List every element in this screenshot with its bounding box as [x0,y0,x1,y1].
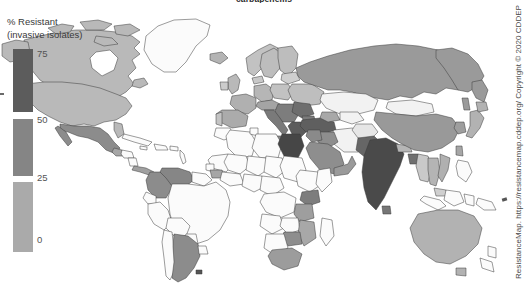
region-nicaragua [128,158,138,166]
region-mali [224,154,250,174]
colorbar-band-high [13,49,33,112]
legend: % Resistant (invasive isolates) [7,15,127,41]
region-united-kingdom [228,74,240,94]
region-dr-congo [260,192,296,218]
colorbar-band-low [13,182,33,252]
region-japan-north [476,102,488,112]
region-thailand [428,158,440,186]
region-tasmania [456,268,466,276]
region-belarus-ukraine [288,84,324,106]
colorbar-tick-50: 50 [37,115,48,125]
edge-artifact-left [0,93,4,95]
region-honduras [121,150,134,158]
region-taiwan [456,146,463,156]
colorbar-ticks: 75 50 25 0 [37,49,73,254]
region-denmark [252,76,264,84]
region-japan [466,110,484,138]
attribution: ResistanceMap. https://resistancemap.cdd… [510,0,526,283]
world-map-container [0,6,500,283]
legend-title-line-1: % Resistant [7,15,127,28]
region-syria-levant [306,130,322,142]
region-south-africa [268,248,302,270]
colorbar: 75 50 25 0 [13,49,73,254]
legend-title-line-2: (invasive isolates) [7,28,127,41]
world-map [0,6,500,283]
region-ireland [220,82,228,90]
region-papua-new-guinea [476,198,496,210]
region-finland [278,46,298,76]
colorbar-tick-0: 0 [37,235,42,245]
region-iceland [210,52,228,64]
region-uruguay [198,246,208,254]
region-new-zealand-north [488,246,496,258]
region-indonesia-borneo [444,190,464,206]
region-philippines [456,160,472,182]
region-portugal [216,112,222,126]
chart-title: carbapenems [0,0,528,3]
region-sakhalin [462,98,470,110]
region-hispaniola [154,144,168,150]
map-artifact-mark [502,197,508,201]
region-kamchatka [472,80,488,102]
region-libya [252,134,282,158]
region-egypt [278,134,304,158]
region-us-florida [114,122,124,138]
region-sri-lanka [382,206,391,214]
region-kenya [300,190,320,206]
colorbar-band-mid [13,119,33,176]
region-somalia [316,168,332,192]
region-uzbekistan [340,112,364,124]
colorbar-gradient [13,49,33,254]
region-falklands [196,270,202,274]
resistance-map-figure: carbapenems % Resistant (invasive isolat… [0,0,528,283]
region-zambia [280,218,300,234]
region-newfoundland [132,78,148,88]
region-indonesia-sumatra [420,196,446,210]
region-baltics [281,72,300,84]
region-lesser-antilles [180,150,186,164]
region-guyana-suriname [192,172,212,186]
region-vietnam [438,154,450,182]
region-australia [410,210,482,264]
region-jamaica [140,146,147,150]
colorbar-tick-75: 75 [37,49,48,59]
region-cuba [122,134,152,146]
region-madagascar [320,218,334,246]
region-greenland [144,19,210,72]
region-puerto-rico [170,146,178,151]
country-layer [2,19,496,282]
region-indonesia-sulawesi [464,194,474,206]
colorbar-tick-25: 25 [37,173,48,183]
attribution-text: ResistanceMap. https://resistancemap.cdd… [514,5,523,279]
region-ivory-coast-ghana [220,172,244,186]
region-new-zealand-south [480,258,494,272]
